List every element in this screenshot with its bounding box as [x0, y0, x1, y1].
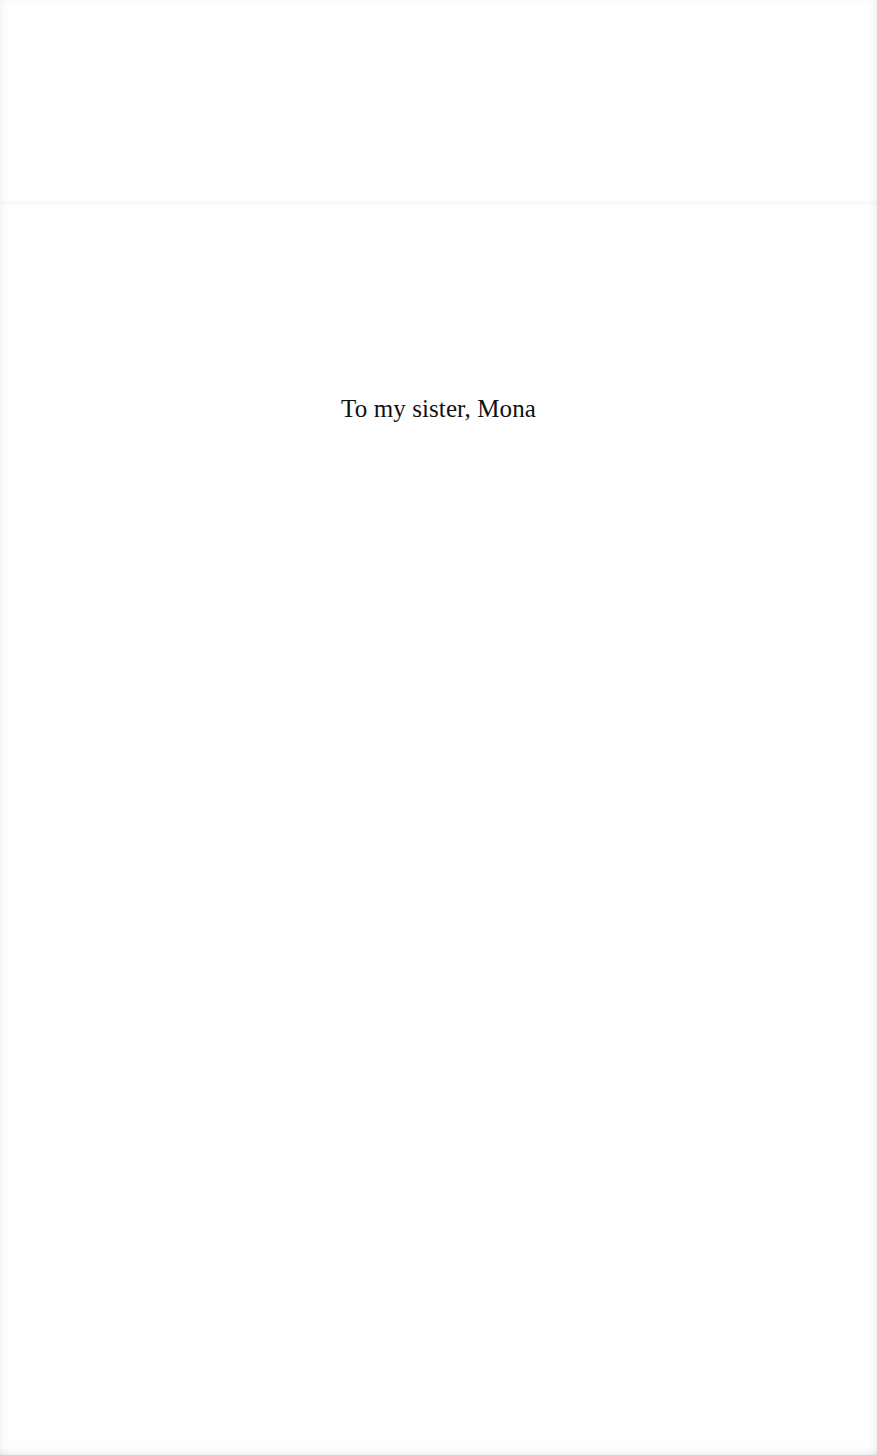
dedication-text: To my sister, Mona: [0, 393, 877, 425]
scan-artifact-band: [0, 200, 877, 206]
book-page: To my sister, Mona: [0, 0, 877, 1455]
